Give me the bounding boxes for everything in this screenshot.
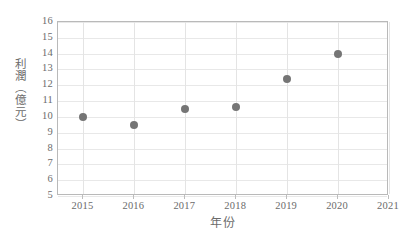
plot-area — [57, 21, 388, 195]
x-axis-tick-mark — [184, 195, 185, 199]
y-axis-title: 利潤（億元） — [8, 58, 26, 130]
x-axis-tick-mark — [286, 195, 287, 199]
x-axis-tick-label: 2021 — [358, 200, 417, 211]
y-axis-tick-label: 8 — [9, 143, 53, 154]
gridline-vertical — [83, 22, 84, 194]
y-axis-tick-label: 7 — [9, 158, 53, 169]
y-axis-tick-label: 16 — [9, 16, 53, 27]
x-axis-tick-mark — [388, 195, 389, 199]
x-axis-tick-mark — [82, 195, 83, 199]
gridline-vertical — [134, 22, 135, 194]
x-axis-tick-mark — [133, 195, 134, 199]
x-axis-title: 年份 — [57, 216, 388, 230]
data-point — [232, 103, 240, 111]
data-point — [283, 75, 291, 83]
data-point — [334, 50, 342, 58]
gridline-vertical — [338, 22, 339, 194]
scatter-chart: 5678910111213141516 20152016201720182019… — [0, 0, 417, 245]
data-point — [181, 105, 189, 113]
y-axis-tick-label: 6 — [9, 174, 53, 185]
gridline-vertical — [389, 22, 390, 194]
x-axis-tick-labels: 2015201620172018201920202021 — [57, 200, 388, 214]
data-point — [130, 121, 138, 129]
y-axis-tick-label: 5 — [9, 190, 53, 201]
data-point — [79, 113, 87, 121]
y-axis-tick-label: 15 — [9, 32, 53, 43]
y-axis-tick-label: 14 — [9, 48, 53, 59]
gridline-vertical — [287, 22, 288, 194]
x-axis-tick-mark — [235, 195, 236, 199]
x-axis-tick-mark — [337, 195, 338, 199]
